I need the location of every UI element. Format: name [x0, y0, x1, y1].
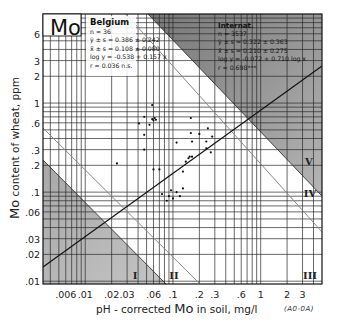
data-point: [205, 140, 207, 142]
region-label-iv: IV: [304, 188, 316, 199]
y-tick-label: .2: [31, 160, 40, 171]
x-axis-label: pH - corrected Mo in soil, mg/l: [96, 301, 257, 316]
international-y-mean: ȳ ± s = 0.322 ± 0.363: [218, 38, 306, 46]
data-point: [158, 168, 160, 170]
data-point: [210, 151, 212, 153]
y-tick-label: .1: [31, 187, 40, 198]
international-stats-panel: Internat. n = 3537 ȳ ± s = 0.322 ± 0.363…: [218, 21, 306, 72]
data-point: [182, 171, 184, 173]
regression-line: [43, 66, 322, 267]
international-n: n = 3537: [218, 30, 306, 38]
data-point: [151, 104, 153, 106]
data-point: [143, 134, 145, 136]
y-axis-label: Mo content of wheat, ppm: [7, 77, 22, 219]
data-point: [211, 136, 213, 138]
data-point: [191, 156, 193, 158]
y-tick-label: 1: [34, 98, 40, 109]
data-point: [207, 127, 209, 129]
x-axis-label-post: in soil, mg/l: [193, 303, 257, 315]
data-point: [179, 195, 181, 197]
region-label-ii: II: [169, 270, 178, 281]
region-label-iii: III: [303, 270, 317, 281]
data-point: [172, 197, 174, 199]
y-axis-label-element: Mo: [7, 200, 22, 219]
region-label-v: V: [305, 156, 313, 167]
data-point: [148, 124, 150, 126]
data-point: [143, 116, 145, 118]
data-point: [152, 119, 154, 121]
x-tick-label: .01: [78, 289, 93, 300]
data-point: [161, 193, 163, 195]
data-point: [166, 200, 168, 202]
x-tick-label: .06: [146, 289, 161, 300]
chart: Mo Belgium n = 36 ȳ ± s = 0.386 ± 0.242 …: [0, 0, 342, 328]
x-tick-label: .2: [195, 289, 204, 300]
data-point: [191, 140, 193, 142]
y-tick-label: .6: [31, 117, 40, 128]
y-tick-label: .03: [25, 233, 40, 244]
y-tick-label: 3: [34, 55, 40, 66]
belgium-r: r = 0.036 n.s.: [90, 62, 167, 70]
x-tick-label: .1: [168, 289, 177, 300]
belgium-title: Belgium: [90, 17, 167, 28]
international-regression: log y = -0.072 + 0.710 log x: [218, 55, 306, 63]
data-point: [155, 119, 157, 121]
y-tick-label: .06: [25, 206, 40, 217]
x-axis-label-pre: pH - corrected: [96, 303, 174, 315]
y-tick-label: 6: [34, 28, 40, 39]
international-r: r = 0.698***: [218, 64, 306, 72]
data-point: [198, 133, 200, 135]
belgium-n: n = 36: [90, 28, 167, 36]
y-tick-label: .01: [25, 276, 40, 287]
data-point: [182, 187, 184, 189]
belgium-x-mean: x̄ ± s = 0.108 ± 0.080: [90, 45, 167, 53]
x-tick-label: .006: [55, 289, 76, 300]
data-point: [175, 191, 177, 193]
y-tick-label: .3: [31, 144, 40, 155]
x-tick-label: .02: [104, 289, 119, 300]
region-label-i: I: [133, 270, 138, 281]
belgium-y-mean: ȳ ± s = 0.386 ± 0.242: [90, 36, 167, 44]
x-tick-label: 3: [300, 289, 306, 300]
data-point: [152, 168, 154, 170]
data-point: [143, 149, 145, 151]
y-tick-label: 2: [34, 71, 40, 82]
data-point: [175, 141, 177, 143]
data-point: [116, 162, 118, 164]
element-title: Mo: [50, 16, 81, 40]
x-tick-label: 2: [284, 289, 290, 300]
belgium-regression: log y = -0.538 + 0.157 x: [90, 53, 167, 61]
y-tick-label: .02: [25, 249, 40, 260]
data-point: [205, 147, 207, 149]
y-axis-label-text: content of wheat, ppm: [9, 77, 21, 200]
x-tick-label: .6: [237, 289, 246, 300]
x-tick-label: .3: [210, 289, 219, 300]
international-title: Internat.: [218, 21, 306, 30]
data-point: [138, 122, 140, 124]
international-x-mean: x̄ ± s = 0.210 ± 0.275: [218, 47, 306, 55]
data-point: [190, 117, 192, 119]
data-point: [185, 161, 187, 163]
data-point: [190, 132, 192, 134]
x-tick-label: 1: [258, 289, 264, 300]
belgium-stats-panel: Belgium n = 36 ȳ ± s = 0.386 ± 0.242 x̄ …: [90, 17, 167, 70]
data-point: [168, 195, 170, 197]
figure-code: (A0-0A): [284, 305, 314, 313]
x-axis-label-element: Mo: [174, 301, 193, 316]
data-point: [189, 156, 191, 158]
x-tick-label: .03: [120, 289, 135, 300]
data-point: [170, 189, 172, 191]
